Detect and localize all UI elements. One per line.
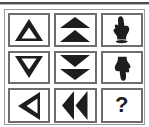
point-up-button[interactable]: [101, 13, 143, 47]
hollow-triangle-up-icon: [14, 18, 44, 42]
double-triangle-up-icon: [59, 17, 91, 43]
button-grid-panel: ?: [4, 9, 145, 125]
button-grid: ?: [8, 13, 143, 123]
top-divider-shadow: [0, 4, 149, 5]
screenshot-root: ?: [0, 0, 149, 127]
double-triangle-left-icon: [62, 90, 88, 121]
question-mark-icon: ?: [115, 94, 128, 116]
hand-pointing-down-icon: [112, 53, 132, 82]
step-down-button[interactable]: [8, 51, 50, 85]
double-triangle-down-icon: [59, 54, 91, 80]
hand-pointing-up-icon: [112, 15, 132, 44]
jump-up-button[interactable]: [54, 13, 96, 47]
help-button[interactable]: ?: [101, 88, 143, 123]
point-down-button[interactable]: [101, 51, 143, 85]
step-left-button[interactable]: [8, 88, 50, 123]
hollow-triangle-left-icon: [17, 91, 41, 121]
hollow-triangle-down-icon: [14, 55, 44, 79]
step-up-button[interactable]: [8, 13, 50, 47]
jump-left-button[interactable]: [54, 88, 96, 123]
jump-down-button[interactable]: [54, 51, 96, 85]
